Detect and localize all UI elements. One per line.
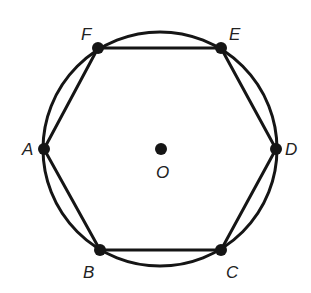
vertex-label-d: D	[285, 140, 297, 159]
vertex-point-c	[215, 244, 227, 256]
vertex-point-b	[94, 244, 106, 256]
vertex-label-c: C	[226, 263, 239, 282]
vertex-label-f: F	[81, 25, 93, 44]
vertex-label-e: E	[229, 25, 241, 44]
vertex-point-a	[38, 143, 50, 155]
center-label-o: O	[156, 163, 169, 182]
center-point-o	[155, 143, 167, 155]
vertex-point-e	[215, 42, 227, 54]
vertex-point-f	[92, 42, 104, 54]
vertex-point-d	[270, 143, 282, 155]
hexagon-in-circle-diagram: ABCDEF O	[0, 0, 311, 293]
vertex-label-a: A	[21, 140, 33, 159]
vertex-label-b: B	[83, 263, 94, 282]
